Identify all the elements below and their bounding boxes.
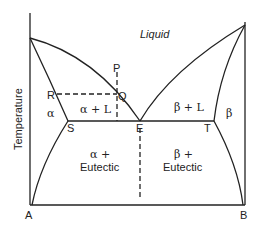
region-alpha-eutectic-line2: Eutectic <box>80 161 120 173</box>
point-R: R <box>47 89 55 101</box>
point-Q: Q <box>118 90 127 102</box>
region-alpha: α <box>47 107 55 120</box>
region-liquid: Liquid <box>140 28 170 40</box>
point-S: S <box>67 122 74 134</box>
point-E: E <box>136 122 143 134</box>
region-beta-plus-liquid: β + L <box>174 101 205 114</box>
point-T: T <box>204 122 211 134</box>
component-B: B <box>240 209 247 221</box>
solvus-right <box>214 121 243 205</box>
region-alpha-eutectic-line1: α + <box>90 148 110 161</box>
component-A: A <box>25 209 33 221</box>
region-alpha-plus-liquid: α + L <box>80 103 112 116</box>
point-P: P <box>113 62 120 74</box>
phase-diagram: Liquid α + L β + L α β α + Eutectic β + … <box>0 0 257 234</box>
y-axis-label: Temperature <box>12 88 24 150</box>
region-beta-eutectic-line2: Eutectic <box>163 161 203 173</box>
region-beta: β <box>226 107 232 120</box>
region-beta-eutectic-line1: β + <box>174 148 193 161</box>
solvus-left <box>32 121 68 205</box>
